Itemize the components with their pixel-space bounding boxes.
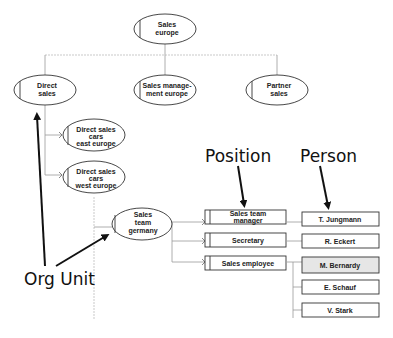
org-unit-direct-sales-cars-east-europe[interactable]: Direct sales cars east europe xyxy=(63,119,125,151)
annotation-person: Person xyxy=(300,146,357,206)
label: ment europe xyxy=(146,90,188,98)
label: east europe xyxy=(76,140,115,148)
label: cars xyxy=(89,175,104,182)
label: cars xyxy=(89,133,104,140)
person-t-jungmann[interactable]: T. Jungmann xyxy=(302,212,379,226)
org-unit-direct-sales-cars-west-europe[interactable]: Direct sales cars west europe xyxy=(63,161,125,193)
arrow-icon xyxy=(56,236,106,266)
org-chart: Sales europe Direct sales Sales manage- … xyxy=(0,0,393,338)
label: europe xyxy=(155,29,178,37)
label: V. Stark xyxy=(327,307,353,314)
label: Sales employee xyxy=(222,260,275,268)
annotation-label: Person xyxy=(300,146,357,166)
label: Direct sales xyxy=(76,168,115,175)
label: germany xyxy=(128,227,157,235)
annotation-label: Position xyxy=(205,146,271,166)
arrow-icon xyxy=(320,166,328,206)
label: Sales manage- xyxy=(142,82,192,90)
label: Direct sales xyxy=(76,126,115,133)
person-m-bernardy[interactable]: M. Bernardy xyxy=(302,257,379,273)
arrow-icon xyxy=(37,116,45,266)
label: sales xyxy=(270,90,288,97)
org-unit-partner-sales[interactable]: Partner sales xyxy=(246,75,308,105)
position-secretary[interactable]: Secretary xyxy=(205,233,286,247)
label: T. Jungmann xyxy=(319,216,362,224)
label: M. Bernardy xyxy=(320,262,361,270)
org-unit-sales-team-germany[interactable]: Sales team germany xyxy=(112,208,172,240)
label: west europe xyxy=(75,182,117,190)
position-sales-employee[interactable]: Sales employee xyxy=(205,256,286,270)
label: Partner xyxy=(267,82,292,89)
label: team xyxy=(135,219,151,226)
label: Sales xyxy=(158,21,176,28)
person-r-eckert[interactable]: R. Eckert xyxy=(302,234,379,248)
label: sales xyxy=(38,90,56,97)
label: R. Eckert xyxy=(325,238,356,245)
label: E. Schauf xyxy=(324,284,357,291)
label: Secretary xyxy=(232,237,264,245)
annotation-label: Org Unit xyxy=(24,269,95,289)
label: Direct xyxy=(37,82,58,89)
org-unit-sales-management-europe[interactable]: Sales manage- ment europe xyxy=(134,75,196,105)
label: manager xyxy=(233,217,262,225)
label: Sales team xyxy=(230,210,267,217)
label: Sales xyxy=(134,211,152,218)
org-unit-direct-sales[interactable]: Direct sales xyxy=(14,75,76,105)
annotation-position: Position xyxy=(205,146,271,204)
position-sales-team-manager[interactable]: Sales team manager xyxy=(205,210,286,225)
person-e-schauf[interactable]: E. Schauf xyxy=(302,280,379,294)
org-unit-sales-europe[interactable]: Sales europe xyxy=(134,14,196,44)
arrow-icon xyxy=(238,166,244,204)
person-v-stark[interactable]: V. Stark xyxy=(302,303,379,317)
